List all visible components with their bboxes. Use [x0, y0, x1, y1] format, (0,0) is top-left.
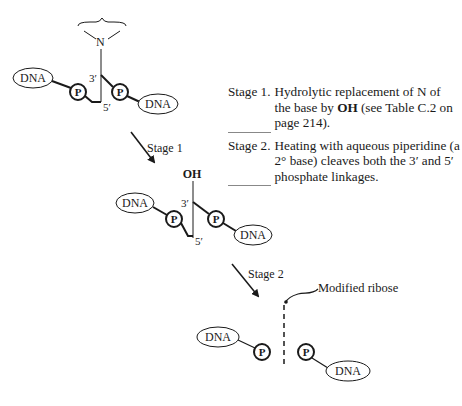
bond-p-dna-right-mid	[223, 223, 236, 231]
phosphate-right-label: P	[117, 86, 124, 98]
callout-curved-arrow-icon	[285, 289, 318, 303]
label-3prime: 3′	[89, 72, 97, 84]
bond-3prime-p-mid	[193, 202, 209, 214]
note-stage2-text: Heating with aqueous piperidine (a 2° ba…	[275, 138, 461, 185]
dna-label-right-mid: DNA	[240, 228, 266, 242]
dna-label-right-bottom: DNA	[335, 364, 361, 378]
reaction-diagram: N 3′ 5′ DNA P P DNA Stage 1 OH 3′ 5′ DNA…	[0, 0, 462, 406]
note-stage1-label: Stage 1.	[228, 84, 275, 131]
stage1-arrow-label: Stage 1	[147, 141, 183, 155]
bond-dna-p-left-bottom	[238, 340, 255, 348]
dna-label-left: DNA	[20, 71, 46, 85]
ring-bond-right	[108, 31, 120, 39]
phosphate-left-bottom-label: P	[259, 346, 266, 358]
stage2-arrow-label: Stage 2	[248, 267, 284, 281]
base-nitrogen: N	[96, 35, 105, 49]
stage1-arrow-group: Stage 1	[131, 132, 183, 162]
phosphate-right-mid-label: P	[213, 213, 220, 225]
bond-dna-p-left	[52, 81, 71, 88]
callout-arrow-tip	[284, 300, 288, 304]
stage2-arrow-group: Stage 2	[232, 264, 284, 296]
bottom-structure: DNA P Modified ribose P DNA	[197, 281, 399, 381]
bond-p-5prime-mid	[181, 223, 193, 236]
stage-notes: Stage 1. Hydrolytic replacement of N of …	[228, 84, 460, 191]
label-5prime-mid: 5′	[195, 235, 203, 247]
note-stage2-label: Stage 2.	[228, 138, 275, 185]
label-3prime-mid: 3′	[181, 197, 189, 209]
note-stage2: Stage 2. Heating with aqueous piperidine…	[228, 138, 460, 185]
note-stage1-bold: OH	[337, 100, 358, 115]
phosphate-right-bottom-label: P	[303, 346, 310, 358]
note-stage1: Stage 1. Hydrolytic replacement of N of …	[228, 84, 460, 131]
top-structure: N 3′ 5′ DNA P P DNA	[13, 18, 178, 114]
dna-label-left-mid: DNA	[122, 196, 148, 210]
dna-label-left-bottom: DNA	[205, 330, 231, 344]
bond-p-dna-right	[127, 96, 140, 102]
bond-p-dna-right-bottom	[312, 358, 328, 368]
dna-label-right: DNA	[145, 97, 171, 111]
bond-3prime-p	[101, 75, 113, 87]
phosphate-left-mid-label: P	[171, 213, 178, 225]
note-stage1-text: Hydrolytic replacement of N of the base …	[275, 84, 461, 131]
base-ring-brace	[78, 18, 126, 26]
bond-p-5prime	[85, 96, 101, 102]
callout-label: Modified ribose	[318, 281, 399, 295]
phosphate-left-label: P	[75, 86, 82, 98]
label-5prime: 5′	[103, 101, 111, 113]
hydroxyl-label: OH	[183, 167, 202, 181]
bond-dna-p-left-mid	[153, 207, 167, 215]
ring-bond-left	[84, 31, 96, 39]
